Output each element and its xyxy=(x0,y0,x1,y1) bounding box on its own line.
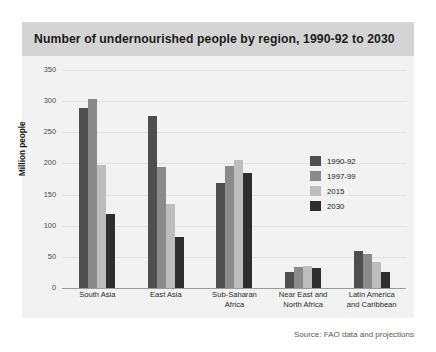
y-tick-label: 150 xyxy=(22,190,56,199)
bar-group xyxy=(354,70,390,288)
y-tick-label: 250 xyxy=(22,127,56,136)
x-axis-label: Sub-SaharanAfrica xyxy=(201,290,267,309)
legend-item: 1990-92 xyxy=(310,156,356,166)
x-axis-label: Near East andNorth Africa xyxy=(270,290,336,309)
legend-swatch xyxy=(310,201,321,211)
y-tick-label: 0 xyxy=(22,283,56,292)
y-tick-label: 350 xyxy=(22,65,56,74)
gridline-rule xyxy=(62,288,406,289)
y-tick-label: 300 xyxy=(22,96,56,105)
x-axis-labels: South AsiaEast AsiaSub-SaharanAfricaNear… xyxy=(63,290,406,309)
legend-item: 1997-99 xyxy=(310,171,356,181)
bar xyxy=(294,267,303,288)
x-axis-label: East Asia xyxy=(133,290,199,309)
bar xyxy=(354,251,363,288)
page-title: Number of undernourished people by regio… xyxy=(22,32,395,46)
bar xyxy=(225,166,234,288)
legend-label: 1997-99 xyxy=(327,172,356,181)
chart-legend: 1990-921997-9920152030 xyxy=(310,156,356,211)
legend-swatch xyxy=(310,171,321,181)
chart-plot-panel: Million people 050100150200250300350 Sou… xyxy=(22,56,414,318)
x-axis-label: Latin Americaand Caribbean xyxy=(339,290,405,309)
legend-item: 2030 xyxy=(310,201,356,211)
legend-swatch xyxy=(310,186,321,196)
bar-group xyxy=(148,70,184,288)
bar xyxy=(106,214,115,288)
y-tick-label: 200 xyxy=(22,158,56,167)
bar xyxy=(166,204,175,288)
source-note: Source: FAO data and projections xyxy=(294,330,414,339)
y-tick-label: 50 xyxy=(22,252,56,261)
y-tick-label: 100 xyxy=(22,221,56,230)
bar xyxy=(243,173,252,288)
bar-group xyxy=(216,70,252,288)
legend-label: 2030 xyxy=(327,202,344,211)
chart-title-banner: Number of undernourished people by regio… xyxy=(22,22,414,56)
chart-page: Number of undernourished people by regio… xyxy=(0,0,436,352)
bar xyxy=(381,272,390,288)
x-axis-label: South Asia xyxy=(64,290,130,309)
legend-label: 1990-92 xyxy=(327,157,356,166)
legend-swatch xyxy=(310,156,321,166)
bar xyxy=(372,262,381,288)
bar xyxy=(88,99,97,288)
bar xyxy=(312,268,321,288)
bar xyxy=(97,165,106,288)
bar xyxy=(175,237,184,288)
bar xyxy=(303,266,312,288)
bar xyxy=(79,108,88,288)
bar xyxy=(234,160,243,288)
bar xyxy=(285,272,294,288)
bar-group xyxy=(79,70,115,288)
legend-label: 2015 xyxy=(327,187,344,196)
legend-item: 2015 xyxy=(310,186,356,196)
bar xyxy=(363,254,372,288)
bar xyxy=(148,116,157,288)
bar xyxy=(216,183,225,288)
bar xyxy=(157,167,166,288)
